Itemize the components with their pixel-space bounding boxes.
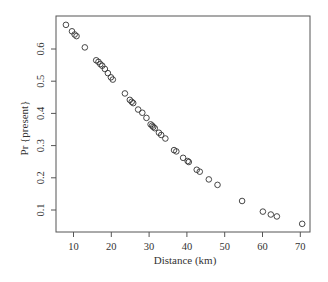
x-tick-label: 70 — [295, 241, 306, 252]
data-point — [260, 209, 266, 215]
y-tick-label: 0.4 — [35, 106, 46, 120]
y-tick-label: 0.2 — [35, 171, 46, 184]
data-point — [215, 182, 221, 188]
data-points — [63, 22, 305, 227]
data-point — [130, 100, 136, 106]
data-point — [63, 22, 69, 28]
data-point — [144, 115, 150, 121]
data-point — [274, 214, 280, 220]
x-axis: 10203040506070 — [68, 232, 305, 252]
y-tick-label: 0.6 — [35, 42, 46, 55]
scatter-chart: 10203040506070 0.10.20.30.40.50.6 Distan… — [0, 0, 328, 282]
data-point — [239, 198, 245, 204]
x-axis-label: Distance (km) — [154, 254, 217, 267]
y-tick-label: 0.5 — [35, 75, 46, 88]
x-tick-label: 30 — [144, 241, 155, 252]
x-tick-label: 60 — [257, 241, 268, 252]
data-point — [82, 45, 88, 51]
data-point — [268, 212, 274, 218]
data-point — [139, 110, 145, 116]
x-tick-label: 40 — [182, 241, 193, 252]
x-tick-label: 20 — [106, 241, 117, 252]
data-point — [122, 91, 128, 97]
y-tick-label: 0.3 — [35, 139, 46, 152]
y-axis-label: Pr {present} — [18, 101, 30, 156]
data-point — [299, 221, 305, 227]
data-point — [206, 177, 212, 183]
y-tick-label: 0.1 — [35, 203, 46, 216]
x-tick-label: 50 — [219, 241, 230, 252]
plot-frame — [56, 16, 310, 232]
data-point — [163, 136, 169, 142]
y-axis: 0.10.20.30.40.50.6 — [35, 42, 56, 216]
x-tick-label: 10 — [68, 241, 79, 252]
